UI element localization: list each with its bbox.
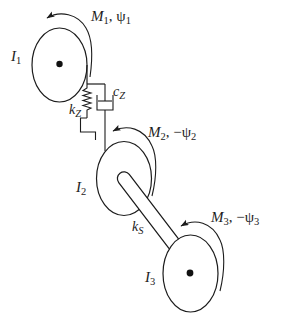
label-moment-3-separator: , − bbox=[229, 209, 245, 225]
disk-1-center-dot bbox=[56, 61, 62, 67]
label-angle-3-subscript: 3 bbox=[254, 216, 259, 227]
label-inertia-1-subscript: 1 bbox=[16, 55, 21, 66]
label-inertia-3: I3 bbox=[145, 270, 155, 285]
disk-3-center-dot bbox=[187, 270, 194, 277]
label-moment-3-symbol: M bbox=[211, 209, 224, 225]
label-inertia-1: I1 bbox=[11, 49, 21, 64]
label-spring-kz: kZ bbox=[69, 103, 81, 117]
label-angle-2-subscript: 2 bbox=[191, 131, 196, 142]
label-inertia-2-subscript: 2 bbox=[81, 186, 86, 197]
label-spring-kz-subscript: Z bbox=[75, 108, 81, 119]
spring-lower-bracket bbox=[81, 118, 96, 140]
damper-cz bbox=[97, 84, 113, 151]
label-angle-3-symbol: ψ bbox=[245, 209, 254, 225]
label-damper-cz-subscript: Z bbox=[119, 90, 125, 101]
label-moment-2-symbol: M bbox=[148, 124, 161, 140]
label-angle-2-symbol: ψ bbox=[182, 124, 191, 140]
spring-kz-coil bbox=[83, 84, 91, 118]
label-moment-1: M1, ψ1 bbox=[91, 9, 131, 24]
mechanical-system-figure: I1 M1, ψ1 kZ cZ M2, −ψ2 I2 kS M3, −ψ3 I3 bbox=[0, 0, 292, 323]
label-inertia-3-subscript: 3 bbox=[150, 276, 155, 287]
label-angle-1-subscript: 1 bbox=[126, 15, 131, 26]
label-moment-1-symbol: M bbox=[91, 8, 104, 24]
label-moment-2-separator: , − bbox=[166, 124, 182, 140]
label-angle-1-symbol: ψ bbox=[116, 8, 125, 24]
label-shaft-ks-subscript: S bbox=[138, 225, 143, 236]
label-moment-2: M2, −ψ2 bbox=[148, 125, 196, 140]
label-shaft-ks: kS bbox=[132, 220, 143, 234]
label-damper-cz: cZ bbox=[113, 85, 125, 99]
label-moment-3: M3, −ψ3 bbox=[211, 210, 259, 225]
label-inertia-2: I2 bbox=[76, 180, 86, 195]
